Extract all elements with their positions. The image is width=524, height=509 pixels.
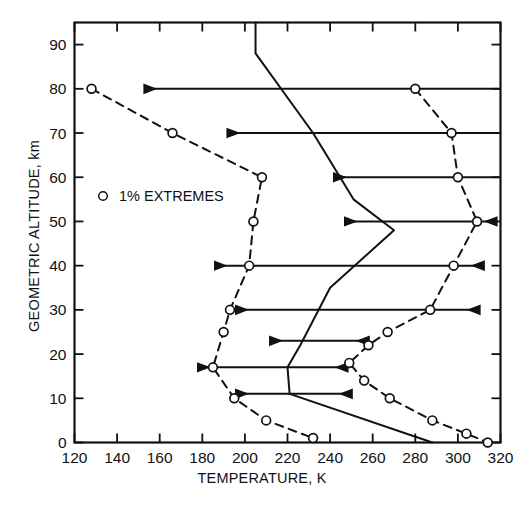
data-point-marker [447, 129, 456, 138]
data-point-marker [219, 328, 228, 337]
y-tick-label: 40 [49, 257, 67, 274]
y-axis-tick-labels: 0102030405060708090 [49, 36, 67, 451]
y-axis-title: GEOMETRIC ALTITUDE, km [26, 106, 42, 366]
data-point-marker [226, 305, 235, 314]
data-point-marker [483, 438, 492, 447]
x-tick-label: 280 [402, 449, 428, 466]
x-tick-label: 240 [317, 449, 343, 466]
data-point-marker [364, 341, 373, 350]
temperature-altitude-figure: 120140160180200220240260280300320 010203… [0, 0, 524, 509]
x-tick-label: 140 [104, 449, 130, 466]
data-point-marker [454, 173, 463, 182]
y-tick-label: 0 [58, 434, 67, 451]
y-tick-label: 60 [49, 169, 67, 186]
data-point-marker [309, 434, 318, 443]
x-axis-tick-labels: 120140160180200220240260280300320 [62, 449, 514, 466]
series-line [256, 23, 433, 443]
y-tick-label: 20 [49, 346, 67, 363]
y-axis-ticks [75, 45, 501, 443]
data-point-marker [473, 217, 482, 226]
x-tick-label: 220 [275, 449, 301, 466]
x-tick-label: 160 [147, 449, 173, 466]
x-tick-label: 200 [232, 449, 258, 466]
data-series-lines [92, 23, 488, 443]
data-point-marker [411, 84, 420, 93]
x-axis-title: TEMPERATURE, K [0, 470, 524, 486]
x-tick-label: 180 [189, 449, 215, 466]
range-bar-arrows [145, 89, 500, 394]
data-point-marker [249, 217, 258, 226]
data-point-marker [462, 429, 471, 438]
x-tick-label: 260 [360, 449, 386, 466]
x-tick-label: 120 [62, 449, 88, 466]
y-tick-label: 80 [49, 80, 67, 97]
data-point-marker [258, 173, 267, 182]
plot-canvas: 120140160180200220240260280300320 010203… [0, 0, 524, 509]
data-point-marker [168, 129, 177, 138]
data-point-marker [426, 305, 435, 314]
data-point-marker [87, 84, 96, 93]
legend: 1% EXTREMES [96, 188, 224, 204]
data-point-marker [428, 416, 437, 425]
data-point-marker [345, 359, 354, 368]
legend-label: 1% EXTREMES [119, 188, 224, 204]
y-tick-label: 90 [49, 36, 67, 53]
series-line [92, 89, 314, 438]
data-point-marker [385, 394, 394, 403]
data-point-marker [383, 328, 392, 337]
x-tick-label: 320 [488, 449, 514, 466]
open-circle-marker-icon [96, 189, 110, 203]
data-point-marker [245, 261, 254, 270]
y-tick-label: 30 [49, 301, 67, 318]
data-point-marker [230, 394, 239, 403]
data-point-marker [262, 416, 271, 425]
y-tick-label: 50 [49, 213, 67, 230]
y-tick-label: 10 [49, 390, 67, 407]
data-point-marker [449, 261, 458, 270]
y-tick-label: 70 [49, 125, 67, 142]
data-point-marker [209, 363, 218, 372]
data-point-marker [360, 376, 369, 385]
x-tick-label: 300 [445, 449, 471, 466]
